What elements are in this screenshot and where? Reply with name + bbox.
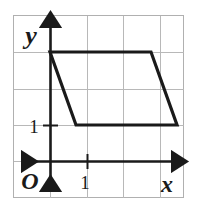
- figure-canvas: y x O 1 1: [0, 0, 198, 215]
- x-tick-label-1: 1: [80, 172, 90, 193]
- origin-label: O: [21, 168, 38, 194]
- coordinate-figure: y x O 1 1: [0, 0, 198, 215]
- figure-border: [14, 16, 184, 198]
- y-axis-label: y: [22, 21, 37, 50]
- x-axis-label: x: [160, 171, 173, 197]
- y-tick-label-1: 1: [29, 116, 39, 137]
